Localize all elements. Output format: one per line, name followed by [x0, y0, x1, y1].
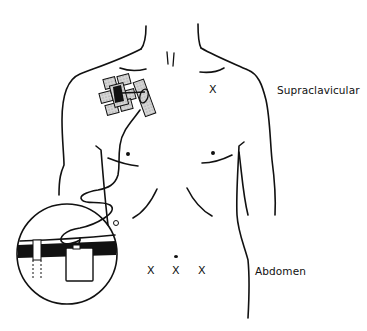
site-mark-abdomen-3: X	[198, 265, 206, 276]
sternal-notch	[167, 52, 174, 66]
right-arm-inner	[239, 152, 248, 215]
navel	[174, 255, 178, 258]
right-shoulder-outline	[201, 48, 275, 215]
clavicle-left	[120, 68, 146, 70]
belt-loop	[33, 240, 41, 260]
infusion-tubing	[61, 110, 140, 244]
nipple-right	[212, 152, 214, 154]
nipple-left	[127, 153, 129, 155]
clavicle-right	[200, 68, 224, 72]
torso-right-side	[237, 142, 249, 318]
site-mark-abdomen-2: X	[172, 265, 180, 276]
infusion-pump	[66, 248, 93, 281]
neck-left	[141, 26, 146, 49]
pec-left	[108, 158, 138, 166]
rib-right	[187, 188, 212, 216]
neck-right	[198, 24, 201, 48]
label-abdomen: Abdomen	[255, 265, 306, 277]
site-mark-supraclavicular: X	[209, 84, 217, 95]
rib-left	[133, 189, 157, 218]
site-mark-abdomen-1: X	[147, 265, 155, 276]
label-supraclavicular: Supraclavicular	[277, 84, 360, 96]
torso-left-side	[96, 146, 108, 225]
pec-right	[202, 155, 232, 163]
torso-diagram	[0, 0, 367, 331]
catheter-dressing	[99, 74, 156, 117]
